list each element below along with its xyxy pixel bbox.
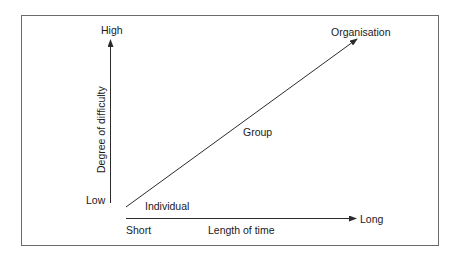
trend-arrow bbox=[126, 39, 357, 207]
point-label-group: Group bbox=[243, 126, 272, 138]
x-axis-end-label: Long bbox=[360, 213, 383, 225]
x-axis-title: Length of time bbox=[208, 224, 275, 236]
point-label-organisation: Organisation bbox=[331, 26, 391, 38]
y-axis-low-label: Low bbox=[86, 194, 105, 206]
y-axis-title: Degree of difficulty bbox=[95, 86, 107, 173]
diagram-canvas bbox=[0, 0, 463, 256]
x-axis-start-label: Short bbox=[126, 224, 151, 236]
y-axis-high-label: High bbox=[101, 24, 123, 36]
point-label-individual: Individual bbox=[145, 200, 189, 212]
